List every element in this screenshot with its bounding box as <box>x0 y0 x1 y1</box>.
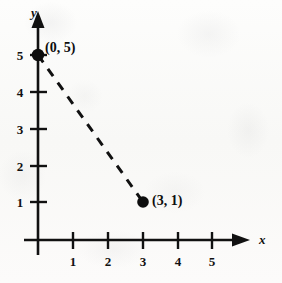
x-axis-arrow-icon <box>232 234 250 247</box>
y-tick-label-5: 5 <box>12 49 28 62</box>
point-marker-3-1 <box>137 196 149 208</box>
x-axis-label: x <box>259 233 266 246</box>
x-tick-label-1: 1 <box>65 255 81 268</box>
point-label-3-1: (3, 1) <box>152 194 182 208</box>
x-tick-label-3: 3 <box>135 255 151 268</box>
graph-figure: y x 1 2 3 4 5 1 2 3 4 5 (0, 5) (3, 1) <box>0 0 282 283</box>
y-tick-label-2: 2 <box>12 160 28 173</box>
point-marker-0-5 <box>32 49 44 61</box>
x-tick-label-2: 2 <box>100 255 116 268</box>
dashed-segment <box>38 55 143 202</box>
coordinate-plane <box>0 0 282 283</box>
y-tick-label-1: 1 <box>12 196 28 209</box>
y-axis-label: y <box>31 6 37 19</box>
point-label-0-5: (0, 5) <box>45 41 75 55</box>
x-tick-label-5: 5 <box>204 255 220 268</box>
x-tick-label-4: 4 <box>170 255 186 268</box>
y-tick-label-3: 3 <box>12 123 28 136</box>
y-tick-label-4: 4 <box>12 86 28 99</box>
